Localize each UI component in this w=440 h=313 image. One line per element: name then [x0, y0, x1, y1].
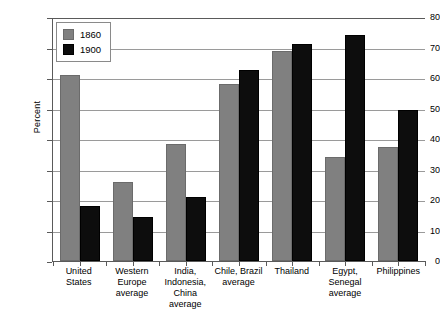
bar-group — [159, 18, 212, 261]
bar-1900 — [398, 110, 418, 261]
legend-label-1900: 1900 — [80, 45, 101, 55]
legend-swatch-1860-icon — [63, 29, 74, 40]
category-label-line: Western — [106, 266, 157, 277]
bar-1860 — [166, 144, 186, 261]
x-axis-category-label: India,Indonesia,China average — [159, 266, 212, 310]
legend-swatch-1900-icon — [63, 44, 74, 55]
y-axis-title: Percent — [32, 82, 42, 152]
bar-1860 — [219, 84, 239, 261]
bar-1900 — [292, 44, 312, 261]
category-label-line: average — [213, 277, 264, 288]
bar-group — [212, 18, 265, 261]
legend-label-1860: 1860 — [80, 30, 101, 40]
x-axis-category-label: WesternEuropeaverage — [105, 266, 158, 310]
category-label-line: Egypt, — [319, 266, 370, 277]
category-label-line: Chile, Brazil — [213, 266, 264, 277]
y-axis-tick-mark — [47, 262, 52, 263]
bar-1860 — [325, 157, 345, 261]
bar-1900 — [345, 35, 365, 261]
bar-group — [106, 18, 159, 261]
x-axis-category-labels: United StatesWesternEuropeaverageIndia,I… — [52, 266, 425, 310]
bar-1860 — [113, 182, 133, 261]
x-axis-category-label: United States — [52, 266, 105, 310]
bar-1900 — [80, 206, 100, 261]
bar-chart: Percent 01020304050607080 United StatesW… — [0, 0, 440, 313]
chart-legend: 1860 1900 — [56, 22, 111, 62]
x-axis-category-label: Chile, Brazilaverage — [212, 266, 265, 310]
x-axis-category-label: Philippines — [372, 266, 425, 310]
x-axis-category-label: Thailand — [265, 266, 318, 310]
bar-1900 — [186, 197, 206, 261]
bar-1860 — [378, 147, 398, 261]
bar-group — [372, 18, 425, 261]
bar-1860 — [272, 51, 292, 261]
bar-group — [319, 18, 372, 261]
legend-item-1900: 1900 — [63, 42, 101, 57]
category-label-line: Europe — [106, 277, 157, 288]
category-label-line: average — [106, 288, 157, 299]
category-label-line: Indonesia, — [160, 277, 211, 288]
category-label-line: Thailand — [266, 266, 317, 277]
category-label-line: Philippines — [373, 266, 424, 277]
x-axis-tick-mark — [425, 261, 426, 266]
bar-1900 — [239, 70, 259, 261]
category-label-line: average — [319, 288, 370, 299]
bar-1860 — [60, 75, 80, 261]
category-label-line: India, — [160, 266, 211, 277]
category-label-line: United States — [53, 266, 104, 288]
bar-group — [266, 18, 319, 261]
legend-item-1860: 1860 — [63, 27, 101, 42]
category-label-line: China average — [160, 288, 211, 310]
bar-1900 — [133, 217, 153, 261]
x-axis-category-label: Egypt,Senegalaverage — [318, 266, 371, 310]
category-label-line: Senegal — [319, 277, 370, 288]
